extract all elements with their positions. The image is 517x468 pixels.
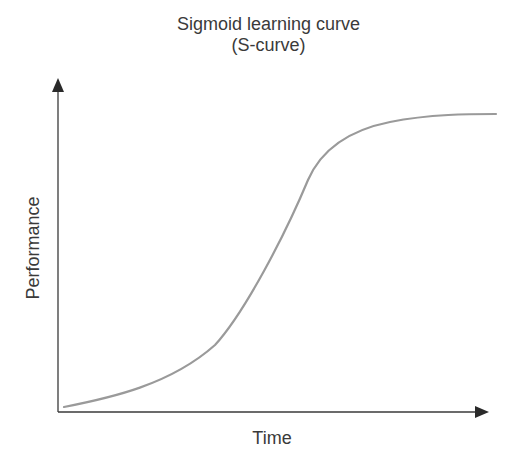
y-axis-label: Performance (23, 196, 44, 299)
x-axis-arrow-icon (475, 406, 489, 418)
x-axis-label: Time (232, 428, 312, 449)
sigmoid-curve (64, 114, 496, 407)
y-axis-arrow-icon (52, 78, 64, 92)
chart-plot-area (0, 0, 517, 468)
